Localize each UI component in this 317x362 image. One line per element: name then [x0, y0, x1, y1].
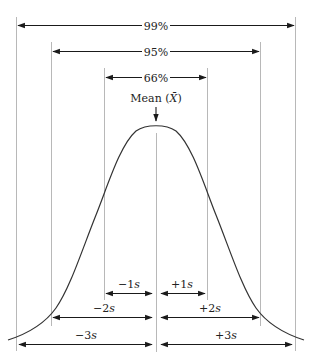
- guide-lines: [17, 17, 296, 352]
- label-66-percent: 66%: [144, 72, 168, 85]
- sd-1-arrows: −1s +1s: [106, 278, 205, 294]
- mean-label: Mean (X̄): [130, 92, 181, 121]
- label-95-percent: 95%: [144, 46, 168, 59]
- label-99-percent: 99%: [144, 20, 168, 33]
- label-minus3s: −3s: [75, 329, 97, 342]
- normal-distribution-diagram: 99% 95% 66% Mean (X̄) −1s +1s −2s +2s −3…: [0, 0, 317, 362]
- label-plus1s: +1s: [171, 278, 193, 291]
- range-66: 66%: [106, 72, 206, 85]
- sd-3-arrows: −3s +3s: [19, 329, 292, 345]
- range-95: 95%: [53, 46, 259, 59]
- range-99: 99%: [18, 20, 294, 33]
- label-minus2s: −2s: [93, 302, 115, 315]
- label-plus3s: +3s: [215, 329, 237, 342]
- label-plus2s: +2s: [199, 302, 221, 315]
- mean-label-text: Mean (X̄): [130, 92, 181, 105]
- label-minus1s: −1s: [118, 278, 140, 291]
